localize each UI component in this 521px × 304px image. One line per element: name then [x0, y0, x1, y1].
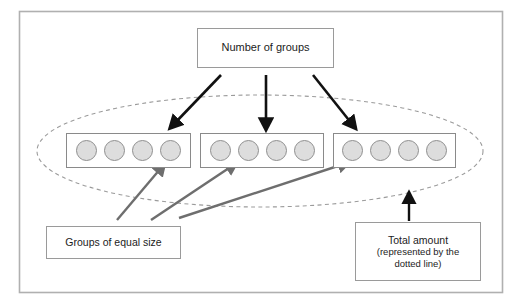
total-amount-label-box: Total amount (represented by the dotted … — [355, 222, 481, 281]
counter-dot — [210, 140, 231, 161]
counter-dot — [76, 140, 97, 161]
counter-dot — [266, 140, 287, 161]
counter-dot — [104, 140, 125, 161]
diagram-canvas: Number of groups Groups of equal size To… — [0, 0, 521, 304]
counter-dot — [342, 140, 363, 161]
counter-dot — [294, 140, 315, 161]
groups-of-equal-size-label-box: Groups of equal size — [46, 226, 181, 259]
group-box-2 — [200, 133, 324, 168]
counter-dot — [160, 140, 181, 161]
total-amount-text-line-2: (represented by the — [377, 246, 459, 258]
group-box-3 — [333, 133, 456, 168]
counter-dot — [426, 140, 447, 161]
counter-dot — [132, 140, 153, 161]
total-amount-text-line-3: dotted line) — [394, 258, 441, 270]
counter-dot — [398, 140, 419, 161]
counter-dot — [370, 140, 391, 161]
groups-of-equal-size-text: Groups of equal size — [65, 236, 161, 249]
total-amount-text-line-1: Total amount — [388, 234, 448, 247]
counter-dot — [238, 140, 259, 161]
number-of-groups-label-box: Number of groups — [197, 28, 334, 68]
group-box-1 — [66, 133, 191, 168]
number-of-groups-text: Number of groups — [221, 41, 309, 54]
